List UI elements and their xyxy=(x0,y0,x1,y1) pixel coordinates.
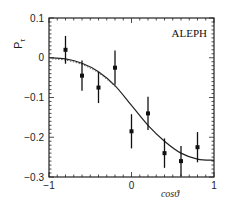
x-tick-label: 0 xyxy=(129,180,135,191)
data-point xyxy=(196,132,200,162)
polarization-chart: 0.10−0.1−0.2−0.3−101 Pτ cosϑ ALEPH xyxy=(0,0,226,207)
x-tick-label: −1 xyxy=(43,180,55,191)
y-tick-label: −0.1 xyxy=(24,92,44,103)
y-tick-label: 0.1 xyxy=(30,13,44,24)
data-point xyxy=(97,72,101,103)
y-tick-label: −0.2 xyxy=(24,132,44,143)
axis-ticks xyxy=(49,18,214,177)
aleph-annotation: ALEPH xyxy=(172,27,208,39)
axis-tick-labels: 0.10−0.1−0.2−0.3−101 xyxy=(24,13,217,192)
data-point xyxy=(130,114,134,148)
data-point xyxy=(113,51,117,85)
x-tick-label: 1 xyxy=(211,180,217,191)
x-axis-label: cosϑ xyxy=(161,188,180,199)
data-point xyxy=(146,97,150,130)
data-point xyxy=(179,146,183,176)
y-tick-label: −0.3 xyxy=(24,172,44,183)
data-point xyxy=(80,61,84,91)
y-axis-label: Pτ xyxy=(12,39,26,49)
y-tick-label: 0 xyxy=(38,52,44,63)
plot-frame xyxy=(49,18,214,177)
